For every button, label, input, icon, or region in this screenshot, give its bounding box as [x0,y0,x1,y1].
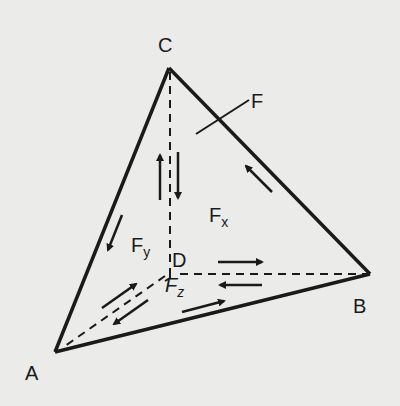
arrow-da-up-icon [102,284,136,308]
vertex-A-label: A [25,362,39,384]
vertex-D-label: D [172,249,186,271]
vertex-B-label: B [353,295,366,317]
edge-AC [55,68,169,352]
force-Fx-label: Fx [209,204,228,230]
force-Fy-label: Fy [131,234,150,260]
force-arrows [102,152,272,324]
arrow-ac-icon [108,215,122,250]
arrow-da-down-icon [114,300,148,324]
vertex-C-label: C [158,34,172,56]
tetrahedron-diagram: C A B D F Fx Fy Fz [0,0,400,406]
edge-CB [169,68,370,274]
force-Fz-label: Fz [165,274,184,300]
edge-AB [55,274,370,352]
force-F-label: F [251,90,263,112]
